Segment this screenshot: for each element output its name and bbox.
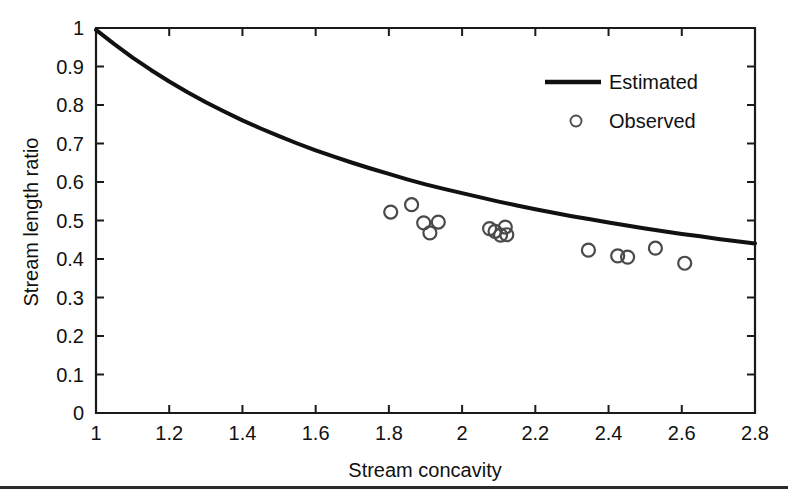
estimated-curve-group [96,30,755,244]
x-tick-label: 1.4 [229,422,257,444]
observed-data-point [649,242,662,255]
x-axis-title: Stream concavity [348,459,501,481]
y-axis-title: Stream length ratio [20,138,42,307]
x-tick-label: 1.6 [302,422,330,444]
x-tick-label: 2.6 [668,422,696,444]
footer-divider-rule [0,486,788,489]
observed-data-point [384,206,397,219]
y-tick-label: 0.3 [56,287,84,309]
x-axis-tick-labels: 11.21.41.61.822.22.42.62.8 [90,422,768,444]
observed-data-point [582,244,595,257]
x-tick-label: 1.8 [375,422,403,444]
chart-legend: Estimated Observed [545,71,698,132]
y-tick-label: 0.8 [56,94,84,116]
estimated-curve [96,30,755,244]
y-tick-label: 0.4 [56,248,84,270]
y-tick-label: 0.9 [56,56,84,78]
y-tick-label: 0.2 [56,325,84,347]
y-tick-label: 0.6 [56,171,84,193]
y-tick-label: 1 [73,17,84,39]
observed-data-point [678,257,691,270]
y-tick-label: 0.7 [56,133,84,155]
y-tick-label: 0 [73,402,84,424]
y-tick-label: 0.5 [56,210,84,232]
y-tick-label: 0.1 [56,364,84,386]
legend-observed-circle-swatch [571,116,582,127]
legend-estimated-label: Estimated [609,71,698,93]
y-axis-tick-labels: 00.10.20.30.40.50.60.70.80.91 [56,17,84,424]
x-tick-label: 2.8 [741,422,769,444]
figure-container: 11.21.41.61.822.22.42.62.8 00.10.20.30.4… [0,0,788,499]
legend-observed-label: Observed [609,110,696,132]
x-tick-label: 2.4 [595,422,623,444]
stream-length-ratio-chart: 11.21.41.61.822.22.42.62.8 00.10.20.30.4… [0,0,788,499]
x-tick-label: 1 [90,422,101,444]
x-tick-label: 1.2 [155,422,183,444]
observed-data-point [405,198,418,211]
x-tick-label: 2.2 [521,422,549,444]
x-tick-label: 2 [457,422,468,444]
observed-data-point [432,216,445,229]
